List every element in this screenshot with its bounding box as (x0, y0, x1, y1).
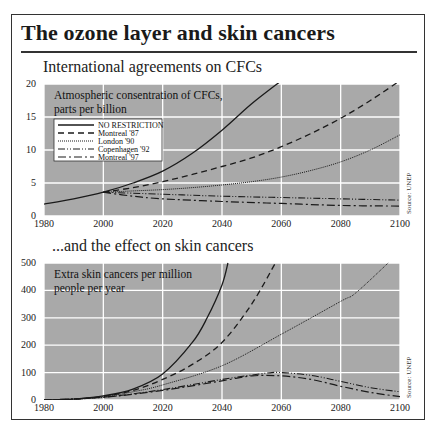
y-tick-label: 0 (31, 394, 36, 405)
y-tick-label: 15 (26, 111, 36, 122)
top-chart: 198020002020204020602080210005101520Atmo… (26, 78, 413, 229)
y-tick-label: 400 (21, 284, 36, 295)
x-tick-label: 2060 (271, 402, 291, 413)
x-tick-label: 2020 (153, 218, 173, 229)
x-tick-label: 2040 (212, 402, 232, 413)
y-tick-label: 5 (31, 177, 36, 188)
source-label: Source: UNEP (405, 172, 413, 214)
charts-svg: 198020002020204020602080210005101520Atmo… (0, 0, 432, 431)
x-tick-label: 2060 (271, 218, 291, 229)
legend-item: Montreal '97 (98, 153, 139, 162)
y-tick-label: 20 (26, 78, 36, 89)
x-tick-label: 1980 (34, 218, 54, 229)
y-tick-label: 10 (26, 144, 36, 155)
x-tick-label: 2000 (93, 402, 113, 413)
x-tick-label: 2080 (331, 218, 351, 229)
y-tick-label: 200 (21, 339, 36, 350)
x-tick-label: 2100 (390, 402, 410, 413)
y-tick-label: 500 (21, 257, 36, 268)
y-tick-label: 300 (21, 312, 36, 323)
x-tick-label: 2100 (390, 218, 410, 229)
y-axis-note: Atmospheric consentration of CFCs, (54, 89, 223, 102)
x-tick-label: 2020 (153, 402, 173, 413)
y-tick-label: 100 (21, 367, 36, 378)
x-tick-label: 2000 (93, 218, 113, 229)
y-axis-note: people per year (54, 282, 125, 295)
bottom-chart: 1980200020202040206020802100010020030040… (21, 257, 413, 413)
y-tick-label: 0 (31, 210, 36, 221)
x-tick-label: 2080 (331, 402, 351, 413)
source-label: Source: UNEP (405, 356, 413, 398)
y-axis-note: parts per billion (54, 103, 127, 116)
x-tick-label: 2040 (212, 218, 232, 229)
x-tick-label: 1980 (34, 402, 54, 413)
y-axis-note: Extra skin cancers per million (54, 268, 192, 281)
